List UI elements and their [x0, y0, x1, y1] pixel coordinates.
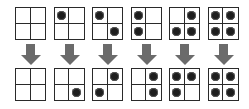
grid-cell: [16, 69, 31, 85]
dot-icon: [226, 27, 235, 36]
output-grid: [54, 68, 85, 101]
grid-cell: [108, 69, 123, 85]
transformation-pair: [208, 0, 242, 109]
input-grid: [92, 7, 123, 40]
grid-cell: [185, 8, 200, 24]
grid-cell: [55, 24, 70, 40]
input-grid: [131, 7, 162, 40]
grid-cell: [223, 24, 238, 40]
grid-cell: [185, 85, 200, 101]
grid-cell: [146, 69, 161, 85]
grid-cell: [132, 85, 147, 101]
grid-cell: [223, 8, 238, 24]
dot-icon: [172, 72, 181, 81]
grid-cell: [209, 8, 224, 24]
input-grid: [54, 7, 85, 40]
transformation-pair: [131, 0, 165, 109]
grid-cell: [132, 8, 147, 24]
dot-icon: [172, 88, 181, 97]
grid-cell: [16, 8, 31, 24]
grid-cell: [146, 8, 161, 24]
input-grid: [15, 7, 46, 40]
dot-icon: [149, 72, 158, 81]
dot-icon: [110, 27, 119, 36]
down-arrow-icon: [175, 44, 195, 66]
grid-cell: [55, 8, 70, 24]
grid-cell: [170, 8, 185, 24]
dot-icon: [72, 88, 81, 97]
dot-icon: [95, 88, 104, 97]
transformation-pair: [54, 0, 88, 109]
grid-cell: [108, 85, 123, 101]
grid-cell: [146, 85, 161, 101]
grid-cell: [16, 85, 31, 101]
grid-cell: [209, 85, 224, 101]
dot-icon: [110, 72, 119, 81]
grid-cell: [55, 85, 70, 101]
grid-cell: [170, 69, 185, 85]
grid-cell: [31, 85, 46, 101]
grid-cell: [108, 24, 123, 40]
grid-cell: [31, 69, 46, 85]
grid-cell: [93, 85, 108, 101]
output-grid: [131, 68, 162, 101]
grid-cell: [132, 24, 147, 40]
down-arrow-icon: [98, 44, 118, 66]
grid-cell: [93, 69, 108, 85]
grid-cell: [69, 85, 84, 101]
input-grid: [208, 7, 239, 40]
grid-cell: [223, 69, 238, 85]
dot-icon: [134, 27, 143, 36]
output-grid: [15, 68, 46, 101]
grid-cell: [223, 85, 238, 101]
dot-icon: [95, 11, 104, 20]
grid-cell: [31, 24, 46, 40]
down-arrow-icon: [137, 44, 157, 66]
down-arrow-icon: [214, 44, 234, 66]
output-grid: [169, 68, 200, 101]
grid-cell: [93, 8, 108, 24]
output-grid: [208, 68, 239, 101]
grid-cell: [209, 69, 224, 85]
grid-cell: [93, 24, 108, 40]
transformation-pair: [92, 0, 126, 109]
dot-icon: [211, 27, 220, 36]
dot-icon: [211, 88, 220, 97]
grid-cell: [146, 24, 161, 40]
output-grid: [92, 68, 123, 101]
transformation-pair: [15, 0, 49, 109]
grid-cell: [209, 24, 224, 40]
dot-icon: [211, 11, 220, 20]
dot-icon: [134, 11, 143, 20]
dot-icon: [149, 88, 158, 97]
dot-icon: [172, 27, 181, 36]
grid-cell: [69, 24, 84, 40]
dot-icon: [226, 72, 235, 81]
transformation-pair: [169, 0, 203, 109]
grid-cell: [55, 69, 70, 85]
grid-cell: [16, 24, 31, 40]
input-grid: [169, 7, 200, 40]
dot-icon: [211, 72, 220, 81]
dot-icon: [187, 72, 196, 81]
down-arrow-icon: [21, 44, 41, 66]
down-arrow-icon: [60, 44, 80, 66]
grid-cell: [31, 8, 46, 24]
dot-icon: [187, 11, 196, 20]
grid-cell: [69, 8, 84, 24]
grid-cell: [132, 69, 147, 85]
grid-cell: [108, 8, 123, 24]
grid-cell: [185, 24, 200, 40]
grid-cell: [185, 69, 200, 85]
dot-icon: [187, 27, 196, 36]
dot-icon: [226, 11, 235, 20]
grid-cell: [170, 24, 185, 40]
grid-cell: [69, 69, 84, 85]
dot-icon: [226, 88, 235, 97]
grid-cell: [170, 85, 185, 101]
dot-icon: [57, 11, 66, 20]
